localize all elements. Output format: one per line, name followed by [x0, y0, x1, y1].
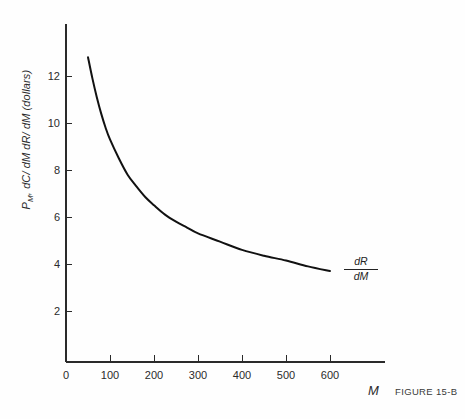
x-tick-label-300: 300: [189, 369, 207, 381]
x-tick-label-0: 0: [63, 369, 69, 381]
y-tick-label-2: 2: [54, 305, 60, 317]
x-axis-tick-labels: 0 100 200 300 400 500 600: [63, 369, 339, 381]
y-tick-label-10: 10: [48, 117, 60, 129]
y-axis-ticks: [66, 76, 72, 311]
curve-label-denominator: dM: [344, 271, 378, 283]
x-axis-variable-label: M: [368, 383, 379, 398]
y-tick-label-8: 8: [54, 164, 60, 176]
x-tick-label-100: 100: [101, 369, 119, 381]
x-axis-ticks: [110, 355, 330, 362]
x-tick-label-400: 400: [233, 369, 251, 381]
curve-label-dr-dm: dR dM: [344, 256, 378, 283]
y-axis-tick-labels: 2 4 6 8 10 12: [48, 70, 60, 317]
plot-area: 2 4 6 8 10 12 0 100 200 300 400 500 600: [0, 0, 465, 419]
figure-caption: FIGURE 15-B: [395, 386, 457, 397]
y-tick-label-4: 4: [54, 258, 60, 270]
marginal-revenue-curve: [88, 57, 330, 271]
curve-label-numerator: dR: [344, 256, 378, 268]
x-tick-label-600: 600: [321, 369, 339, 381]
figure-container: 2 4 6 8 10 12 0 100 200 300 400 500 600: [0, 0, 465, 419]
x-tick-label-500: 500: [277, 369, 295, 381]
y-tick-label-6: 6: [54, 211, 60, 223]
x-tick-label-200: 200: [145, 369, 163, 381]
y-tick-label-12: 12: [48, 70, 60, 82]
